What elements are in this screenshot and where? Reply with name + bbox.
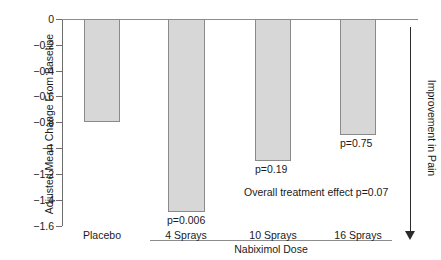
- p-value-10-sprays: p=0.19: [255, 163, 287, 175]
- x-axis-label: Nabiximol Dose: [234, 243, 308, 255]
- x-tick-label-10-sprays: 10 Sprays: [249, 229, 296, 241]
- bar-chart-figure: Adjusted Mean Change From Baseline 0 −0.…: [0, 0, 441, 260]
- x-tick-label-16-sprays: 16 Sprays: [334, 229, 381, 241]
- bar-placebo[interactable]: [84, 19, 120, 122]
- y-tick-mark-6: [56, 174, 62, 175]
- bar-10-sprays[interactable]: [255, 19, 291, 161]
- bar-4-sprays[interactable]: [168, 19, 205, 212]
- y-tick-mark-3: [56, 96, 62, 97]
- improvement-arrow-head-icon: [405, 231, 415, 240]
- y-tick-label-8: −1.6: [2, 220, 54, 232]
- improvement-arrow-shaft: [410, 27, 411, 234]
- y-tick-mark-5: [56, 148, 62, 149]
- p-value-4-sprays: p=0.006: [167, 214, 205, 226]
- bar-16-sprays[interactable]: [340, 19, 376, 135]
- improvement-in-pain-label: Improvement in Pain: [426, 48, 438, 208]
- y-tick-mark-1: [56, 45, 62, 46]
- x-tick-label-4-sprays: 4 Sprays: [165, 229, 206, 241]
- y-tick-label-3: −0.6: [2, 90, 54, 102]
- y-tick-mark-7: [56, 200, 62, 201]
- y-tick-mark-8: [56, 226, 62, 227]
- y-tick-label-5: −1: [2, 142, 54, 154]
- y-tick-label-1: −0.2: [2, 39, 54, 51]
- y-tick-label-6: −1.2: [2, 168, 54, 180]
- y-tick-label-4: −0.8: [2, 116, 54, 128]
- y-tick-mark-4: [56, 122, 62, 123]
- y-tick-mark-0: [56, 19, 62, 20]
- y-axis-spine: [62, 19, 63, 226]
- y-tick-label-7: −1.4: [2, 194, 54, 206]
- p-value-16-sprays: p=0.75: [340, 137, 372, 149]
- y-tick-label-2: −0.4: [2, 65, 54, 77]
- y-tick-mark-2: [56, 71, 62, 72]
- y-tick-label-0: 0: [2, 13, 54, 25]
- x-tick-label-placebo: Placebo: [83, 229, 121, 241]
- overall-treatment-effect-annotation: Overall treatment effect p=0.07: [244, 186, 388, 198]
